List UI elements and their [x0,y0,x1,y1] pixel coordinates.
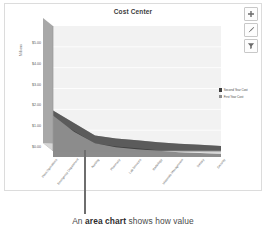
x-axis-labels: Plant OperationsEmergency DepartmentNurs… [43,158,221,192]
caption-suffix: shows how value [126,216,194,226]
x-axis-tick-label: Lab Services [119,158,142,186]
x-axis-tick-label: Emergency Department [56,158,79,186]
filter-icon [247,42,255,50]
callout-leader-line [84,150,86,214]
caption-prefix: An [72,216,85,226]
caption: An area chart shows how value [0,216,266,226]
legend-label: Second Year Cost [224,88,248,92]
y-axis-tick-label: $5.00 [21,41,41,45]
legend-swatch [219,95,222,98]
y-axis-tick-label: $2.00 [21,103,41,107]
x-axis-tick-label: Security [203,158,226,186]
chart-styles-button[interactable] [244,23,258,37]
y-axis-tick-label: $0.00 [21,145,41,149]
x-axis-tick-label: Radiology [140,158,163,186]
y-axis-tick-label: $3.00 [21,83,41,87]
chart-card: Cost Center [4,3,262,191]
x-axis-tick-label: Plant Operations [35,158,58,186]
x-axis-tick-label: Nursing [77,158,100,186]
legend-item[interactable]: First Year Cost [219,95,263,99]
chart-elements-button[interactable] [244,7,258,21]
plus-icon [247,10,255,18]
wall-left-side [43,18,53,151]
y-axis-ticks: $0.00$1.00$2.00$3.00$4.00$5.00 [21,18,41,146]
brush-icon [247,26,255,34]
y-axis-tick-label: $1.00 [21,124,41,128]
x-axis-tick-label: Dietary [182,158,205,186]
y-axis-tick-label: $4.00 [21,62,41,66]
legend-label: First Year Cost [224,95,244,99]
chart-filters-button[interactable] [244,39,258,53]
screenshot-root: Cost Center [0,0,266,233]
x-axis-tick-label: Pharmacy [98,158,121,186]
x-axis-tick-label: Materials Management [161,158,184,186]
plot-area: Millions $0.00$1.00$2.00$3.00$4.00$5.00 … [11,18,257,190]
area-chart-svg [43,18,221,159]
legend-item[interactable]: Second Year Cost [219,88,263,92]
chart-toolbar [244,7,259,53]
caption-emphasis: area chart [85,216,126,226]
chart-legend: Second Year CostFirst Year Cost [219,88,263,101]
legend-swatch [219,88,222,91]
chart-title: Cost Center [5,8,261,15]
